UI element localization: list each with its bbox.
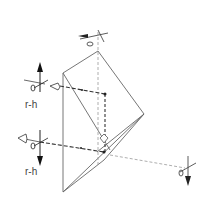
upper-left-eye-icon bbox=[31, 62, 48, 92]
prism-outline bbox=[63, 51, 144, 192]
bottom-right-eye-icon bbox=[179, 156, 196, 186]
upper-r-h-label: r-h bbox=[25, 100, 37, 110]
lower-left-eye-icon bbox=[31, 130, 48, 166]
top-eye-icon bbox=[78, 30, 108, 46]
lower-ray-arrow-icon bbox=[18, 134, 27, 143]
upper-ray-arrow-icon bbox=[50, 83, 60, 90]
hidden-edges bbox=[98, 32, 185, 168]
lower-r-h-label: r-h bbox=[25, 167, 37, 177]
prism-diagram: r-h r-h bbox=[0, 0, 206, 204]
